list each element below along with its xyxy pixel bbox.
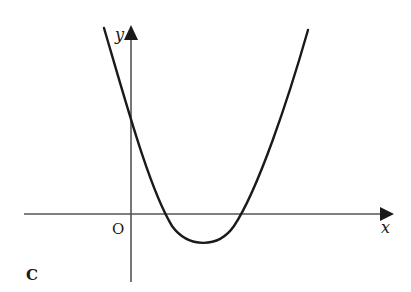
- origin-label: O: [112, 220, 124, 238]
- y-axis-arrow-icon: [124, 25, 138, 40]
- parabola-curve: [104, 28, 308, 243]
- panel-label: C: [26, 266, 38, 284]
- y-axis-label: y: [114, 25, 125, 44]
- x-axis-label: x: [381, 218, 390, 237]
- parabola-diagram: y x O C: [0, 0, 411, 292]
